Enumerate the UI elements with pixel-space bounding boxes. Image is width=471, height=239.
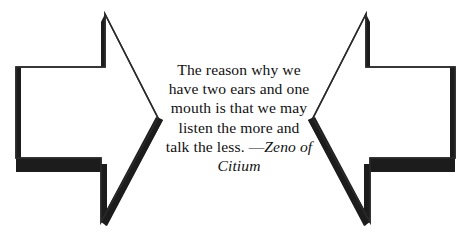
quote-line-4: listen the more and	[158, 118, 320, 137]
right-arrow-outline	[313, 14, 455, 222]
left-arrow-shadow-bottom	[16, 158, 101, 172]
quotation-text-block: The reason why we have two ears and one …	[158, 60, 320, 175]
attribution-name-part-1: Zeno of	[264, 138, 312, 155]
quote-graphic-canvas: The reason why we have two ears and one …	[0, 0, 471, 239]
quote-line-3: mouth is that we may	[158, 98, 320, 117]
left-arrow-outline	[16, 14, 158, 222]
right-arrow-group	[308, 14, 455, 226]
quote-line-5: talk the less. —Zeno of	[158, 137, 320, 156]
quote-line-1: The reason why we	[158, 60, 320, 79]
quote-line-2: have two ears and one	[158, 79, 320, 98]
left-arrow-group	[16, 14, 163, 226]
attribution-name-part-2: Citium	[158, 156, 320, 175]
attribution-em-dash: —	[249, 138, 265, 155]
right-arrow-shadow-bottom	[370, 158, 455, 172]
quote-line-5-text: talk the less.	[166, 138, 249, 155]
